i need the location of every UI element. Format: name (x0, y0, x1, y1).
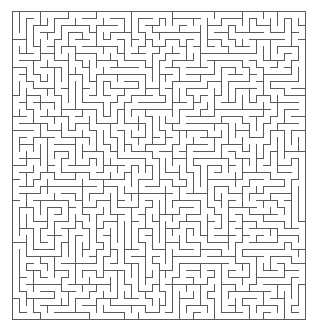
maze-puzzle (0, 0, 316, 321)
maze-wall-path (12, 11, 306, 320)
maze-grid (0, 0, 316, 321)
maze-walls (12, 11, 306, 320)
